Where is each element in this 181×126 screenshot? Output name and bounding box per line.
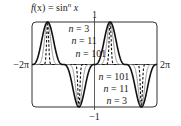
series-label: n = 3 [69, 23, 90, 34]
series-label: n = 11 [104, 83, 129, 94]
chart-title: f(x) = sinn x [31, 1, 79, 14]
x-tick-right: 2π [160, 59, 170, 70]
x-tick-left: −2π [13, 59, 29, 70]
y-tick-top: 1 [92, 9, 97, 20]
chart: f(x) = sinn x −2π 2π 1 −1 n = 3n = 11n =… [0, 0, 181, 126]
series-label: n = 101 [76, 48, 107, 59]
series-label: n = 101 [99, 71, 130, 82]
series-label: n = 3 [106, 95, 127, 106]
y-tick-bottom: −1 [89, 111, 100, 122]
series-label: n = 11 [72, 35, 97, 46]
